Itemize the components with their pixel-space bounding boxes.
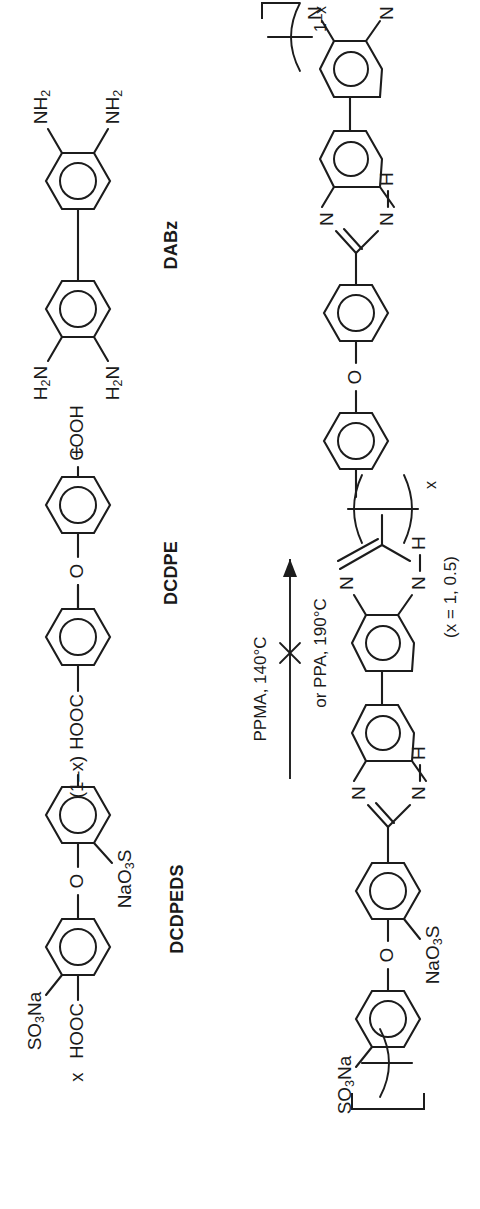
svg-text:H2N: H2N [102, 366, 125, 400]
dabz-amine-label-1: H2N [30, 366, 53, 400]
product-imidazole-n-3: N [316, 212, 337, 226]
product-bond-c-n-1b [376, 803, 394, 823]
product-sulfonate-upper-1: SO3Na [334, 1055, 357, 1114]
dabz-bond-amine-2 [94, 337, 108, 361]
product-benzimidazole-2: N N H [336, 536, 429, 671]
dcdpeds-coefficient: x [66, 1072, 87, 1082]
condition-above-arrow: PPMA, 140°C [251, 636, 270, 741]
dcdpeds-sulfonate-upper: SO3Na [24, 991, 47, 1050]
dcdpe-compound-label: DCDPE [161, 541, 181, 605]
product-fused-benzene-1 [352, 705, 414, 761]
product-ether-oxygen-2: O [344, 370, 365, 385]
dcdpeds-sulfonate-lower: NaO3S [114, 850, 137, 909]
product-polymer: SO3Na O NaO3S [262, 0, 460, 1114]
dabz-ring-a [46, 281, 110, 337]
dcdpeds-compound-label: DCDPEDS [167, 864, 187, 953]
product-sulfonate-lower-1: NaO3S [422, 926, 445, 985]
condition-below-arrow: or PPA, 190°C [311, 598, 330, 707]
reactant-dabz: H2N H2N NH2 NH2 [30, 90, 181, 400]
dcdpeds-left-carboxyl: HOOC [66, 1003, 87, 1059]
product-imidazole-nh-n-2: N [408, 576, 429, 590]
product-bracket-open [352, 1093, 424, 1109]
product-ring-sulfo-2 [356, 863, 420, 919]
product-ring-sulfo-1 [356, 991, 420, 1047]
product-fused-benzene-2 [352, 615, 414, 671]
product-bracket-close: 1–x n [262, 0, 329, 71]
product-block-divider-x: x [382, 475, 439, 543]
reaction-arrow-head [283, 559, 297, 577]
product-imidazole-nh-h-1: H [408, 746, 429, 760]
dabz-amine-label-2: H2N [102, 366, 125, 400]
product-fused-benzene-3 [320, 131, 382, 187]
reactant-dcdpeds: x HOOC SO3Na O [24, 787, 187, 1082]
reaction-arrow-group: PPMA, 140°C or PPA, 190°C [251, 559, 330, 779]
product-imidazole-n-1: N [348, 786, 369, 800]
dcdpeds-bond-so3na-left [46, 975, 62, 995]
dcdpeds-ether-oxygen: O [66, 874, 87, 889]
product-imidazole-nh-n-4: N [376, 6, 397, 20]
product-nonsulfonated-unit: O [324, 285, 388, 543]
dabz-compound-label: DABz [161, 221, 181, 270]
product-imidazole-nh-h-2: H [408, 536, 429, 550]
dabz-bond-amine-1 [48, 337, 62, 361]
dcdpe-coefficient: (1–x) [66, 756, 87, 798]
rotated-drawing-stage: H2N H2N NH2 NH2 [0, 0, 480, 1209]
svg-text:H2N: H2N [30, 366, 53, 400]
svg-text:NH2: NH2 [102, 90, 125, 124]
reaction-scheme-svg: H2N H2N NH2 NH2 [0, 0, 480, 1209]
dcdpe-ether-oxygen: O [66, 564, 87, 579]
dcdpeds-ring-left [46, 919, 110, 975]
product-ether-oxygen-1: O [376, 948, 397, 963]
dcdpe-ring-left [46, 609, 110, 665]
product-bond-nh-c-2 [382, 545, 410, 561]
reaction-scheme-figure: H2N H2N NH2 NH2 [0, 0, 480, 1209]
product-imidazole-n-2: N [336, 576, 357, 590]
product-imidazole-nh-n-3: N [376, 212, 397, 226]
product-subscript-x: x [422, 481, 439, 489]
dcdpe-left-carboxyl: HOOC [66, 694, 87, 750]
dcdpeds-bond-so3na-right [94, 843, 112, 863]
svg-text:NH2: NH2 [30, 90, 53, 124]
product-sulfonated-unit: SO3Na O NaO3S [334, 863, 445, 1114]
product-fused-benzene-4 [320, 41, 382, 97]
product-benzimidazole-3: N N H [316, 131, 397, 253]
product-bond-so3na-2 [404, 919, 420, 939]
product-subscript-1mx: 1–x [312, 6, 329, 32]
dabz-bond-amine-4 [94, 129, 108, 153]
product-composition-note: (x = 1, 0.5) [441, 556, 460, 638]
dabz-ring-b [46, 153, 110, 209]
product-imidazole-nh-n-1: N [408, 786, 429, 800]
product-imidazole-nh-h-3: H [376, 172, 397, 186]
reactant-dcdpe: (1–x) HOOC O DCDPE [46, 477, 181, 798]
product-ring-ns-2 [324, 285, 388, 341]
product-bond-c-n-1 [368, 805, 388, 827]
product-benzimidazole-1: N N H [348, 705, 429, 827]
dabz-amine-label-4: NH2 [102, 90, 125, 124]
product-ring-ns-1 [324, 413, 388, 469]
dabz-bond-amine-3 [48, 129, 62, 153]
product-bond-c-nh-1 [388, 805, 410, 827]
plus-sign-1: + [65, 446, 88, 458]
dcdpe-ring-right [46, 477, 110, 533]
dabz-amine-label-3: NH2 [30, 90, 53, 124]
